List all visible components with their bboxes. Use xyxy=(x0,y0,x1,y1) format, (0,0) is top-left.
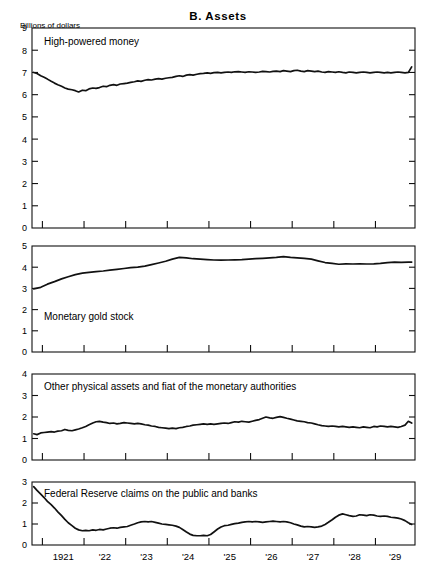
title-group: B. Assets Billions of dollars xyxy=(20,10,247,30)
x-tick-label: '24 xyxy=(182,551,194,562)
y-tick-label: 7 xyxy=(22,68,27,78)
x-tick-label: '29 xyxy=(389,551,401,562)
x-tick-label: '27 xyxy=(307,551,319,562)
y-tick-label: 2 xyxy=(22,412,27,422)
series-label-other-physical-assets-and-fiat: Other physical assets and fiat of the mo… xyxy=(44,381,296,392)
y-tick-label: 5 xyxy=(22,112,27,122)
panel-high-powered-money: 0123456789High-powered money xyxy=(22,23,415,233)
panel-other-physical-assets-and-fiat: 01234Other physical assets and fiat of t… xyxy=(22,369,415,465)
assets-chart-figure: B. Assets Billions of dollars 0123456789… xyxy=(0,0,437,573)
series-label-high-powered-money: High-powered money xyxy=(44,36,139,47)
y-tick-label: 1 xyxy=(22,519,27,529)
y-tick-label: 4 xyxy=(22,135,27,145)
x-tick-label: '28 xyxy=(348,551,360,562)
panel-frame xyxy=(32,28,415,228)
y-axis-units-label: Billions of dollars xyxy=(20,21,80,30)
series-line-high-powered-money xyxy=(34,67,412,92)
series-label-monetary-gold-stock: Monetary gold stock xyxy=(44,311,134,322)
y-tick-label: 3 xyxy=(22,391,27,401)
y-tick-label: 0 xyxy=(22,540,27,550)
chart-svg: B. Assets Billions of dollars 0123456789… xyxy=(0,0,437,573)
page-title: B. Assets xyxy=(189,10,246,22)
x-tick-label: 1921 xyxy=(53,551,74,562)
y-tick-label: 0 xyxy=(22,223,27,233)
x-tick-label: '23 xyxy=(140,551,152,562)
y-tick-label: 3 xyxy=(22,284,27,294)
series-line-other-physical-assets-and-fiat xyxy=(34,417,412,435)
y-tick-label: 1 xyxy=(22,201,27,211)
y-tick-label: 9 xyxy=(22,23,27,33)
y-tick-label: 2 xyxy=(22,305,27,315)
y-tick-label: 0 xyxy=(22,455,27,465)
series-line-monetary-gold-stock xyxy=(34,257,412,289)
panels-group: 0123456789High-powered money012345Moneta… xyxy=(22,23,415,562)
x-tick-label: '22 xyxy=(99,551,111,562)
y-tick-label: 5 xyxy=(22,241,27,251)
panel-federal-reserve-claims: 0123Federal Reserve claims on the public… xyxy=(22,477,415,550)
panel-monetary-gold-stock: 012345Monetary gold stock xyxy=(22,241,415,357)
y-tick-label: 0 xyxy=(22,347,27,357)
y-tick-label: 4 xyxy=(22,369,27,379)
y-tick-label: 2 xyxy=(22,179,27,189)
y-tick-label: 1 xyxy=(22,434,27,444)
y-tick-label: 2 xyxy=(22,498,27,508)
y-tick-label: 3 xyxy=(22,477,27,487)
y-tick-label: 4 xyxy=(22,263,27,273)
x-tick-label: '25 xyxy=(224,551,236,562)
y-tick-label: 6 xyxy=(22,90,27,100)
x-tick-label: '26 xyxy=(265,551,277,562)
panel-frame xyxy=(32,246,415,352)
y-tick-label: 1 xyxy=(22,326,27,336)
series-label-federal-reserve-claims: Federal Reserve claims on the public and… xyxy=(44,488,257,499)
y-tick-label: 8 xyxy=(22,46,27,56)
y-tick-label: 3 xyxy=(22,157,27,167)
